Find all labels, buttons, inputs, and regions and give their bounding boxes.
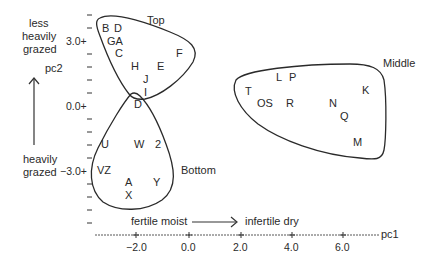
y-tick-3: 3.0+ xyxy=(66,35,87,47)
point-R: R xyxy=(286,97,294,109)
pc1-label: pc1 xyxy=(381,228,399,240)
less-grazed-label-2: heavily xyxy=(22,30,57,42)
point-K: K xyxy=(362,84,370,96)
x-tick-2: 2.0 xyxy=(233,241,248,253)
point-2: 2 xyxy=(155,138,161,150)
y-axis-ticks xyxy=(87,15,92,223)
point-M: M xyxy=(353,136,362,148)
heavily-grazed-label-1: heavily xyxy=(23,153,58,165)
y-tick-0: 0.0+ xyxy=(66,100,87,112)
middle-group-outline xyxy=(234,64,386,159)
point-VZ: VZ xyxy=(97,164,111,176)
arrow-up-icon xyxy=(29,78,39,145)
x-tick-4: 4.0 xyxy=(284,241,299,253)
ordination-diagram: 3.0+ 0.0+ −3.0+ less heavily grazed pc2 … xyxy=(0,0,434,262)
point-E: E xyxy=(157,60,164,72)
arrow-right-icon xyxy=(192,217,237,227)
point-U: U xyxy=(101,138,109,150)
top-group-label: Top xyxy=(147,14,165,26)
point-T: T xyxy=(245,85,252,97)
point-X: X xyxy=(125,189,133,201)
point-Q: Q xyxy=(340,110,349,122)
point-N: N xyxy=(329,97,337,109)
x-tick-minus2: −2.0 xyxy=(126,241,147,253)
fertile-moist-label: fertile moist xyxy=(131,215,187,227)
point-C: C xyxy=(115,47,123,59)
point-P: P xyxy=(289,71,296,83)
less-grazed-label-1: less xyxy=(29,17,49,29)
point-H: H xyxy=(131,60,139,72)
point-W: W xyxy=(134,138,145,150)
point-A: A xyxy=(125,176,133,188)
heavily-grazed-label-2: grazed xyxy=(23,166,57,178)
middle-group-label: Middle xyxy=(383,57,415,69)
bottom-group-label: Bottom xyxy=(181,164,216,176)
point-D-bottom: D xyxy=(134,98,142,110)
point-GA: GA xyxy=(107,35,124,47)
infertile-dry-label: infertile dry xyxy=(245,215,299,227)
pc2-label: pc2 xyxy=(45,62,63,74)
point-Y: Y xyxy=(153,176,161,188)
x-tick-0: 0.0 xyxy=(181,241,196,253)
x-tick-6: 6.0 xyxy=(335,241,350,253)
point-J: J xyxy=(143,73,149,85)
point-D-top: D xyxy=(114,22,122,34)
y-tick-minus3: −3.0+ xyxy=(60,165,87,177)
bottom-group-outline xyxy=(91,93,173,209)
point-OS: OS xyxy=(257,97,273,109)
point-I: I xyxy=(144,86,147,98)
less-grazed-label-3: grazed xyxy=(23,43,57,55)
point-L: L xyxy=(276,71,282,83)
point-F: F xyxy=(176,47,183,59)
point-B: B xyxy=(102,22,109,34)
